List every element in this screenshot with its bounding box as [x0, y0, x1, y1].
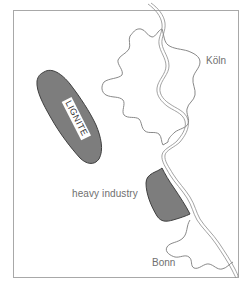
bonn-city-outline	[166, 220, 233, 269]
heavy-industry-label: heavy industry	[72, 189, 138, 199]
heavy-industry-area	[146, 168, 190, 221]
bonn-label: Bonn	[152, 258, 175, 268]
map-canvas	[0, 0, 249, 287]
map-frame	[14, 11, 239, 278]
river-bank-right	[151, 3, 238, 277]
koln-label: Köln	[206, 56, 226, 66]
